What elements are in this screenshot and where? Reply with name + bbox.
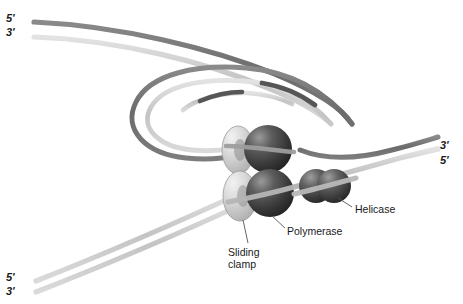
label-helicase: Helicase xyxy=(355,203,395,215)
label-5prime-top-left: 5' xyxy=(6,12,15,25)
strand-lower-left-lower xyxy=(36,198,256,292)
lagging-strand-inner-arc xyxy=(183,92,292,110)
label-5prime-right: 5' xyxy=(440,154,449,167)
label-3prime-right: 3' xyxy=(440,139,449,152)
leader-polymerase xyxy=(272,216,285,228)
parental-duplex-upper-left xyxy=(34,22,352,124)
label-sliding-clamp: Sliding clamp xyxy=(228,246,284,270)
label-polymerase: Polymerase xyxy=(287,225,342,237)
leader-sliding-clamp xyxy=(243,220,248,243)
label-5prime-bottom-left: 5' xyxy=(6,271,15,284)
label-3prime-bottom-left: 3' xyxy=(6,285,15,298)
strand-parental-dark-top xyxy=(34,22,352,124)
dna-replication-diagram: 5' 3' 3' 5' 5' 3' Helicase Polymerase Sl… xyxy=(0,0,463,304)
duplex-lower-left xyxy=(36,188,256,292)
label-sliding-clamp-line1: Sliding xyxy=(228,246,260,258)
strand-lower-left-upper xyxy=(36,188,252,281)
leader-helicase xyxy=(338,198,352,207)
label-3prime-top-left: 3' xyxy=(6,26,15,39)
label-sliding-clamp-line2: clamp xyxy=(228,258,256,270)
okazaki-fragment-2 xyxy=(200,92,242,101)
